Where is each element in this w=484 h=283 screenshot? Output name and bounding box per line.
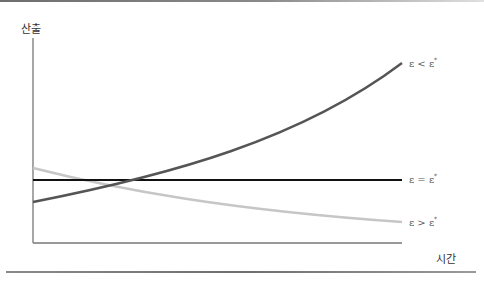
label-text: ε = ε xyxy=(409,174,434,185)
label-text: ε > ε xyxy=(409,217,434,228)
series-line-epsilon-greater xyxy=(33,168,402,222)
chart-canvas xyxy=(0,0,484,283)
superscript-star: * xyxy=(434,215,437,222)
y-axis-label: 산출 xyxy=(21,20,41,36)
bottom-border xyxy=(6,271,476,273)
series-label-epsilon-equal: ε = ε* xyxy=(409,173,437,185)
series-label-epsilon-less: ε < ε* xyxy=(409,57,437,69)
x-axis-label: 시간 xyxy=(436,250,456,266)
superscript-star: * xyxy=(434,56,437,63)
superscript-star: * xyxy=(434,172,437,179)
series-label-epsilon-greater: ε > ε* xyxy=(409,216,437,228)
label-text: ε < ε xyxy=(409,58,434,69)
